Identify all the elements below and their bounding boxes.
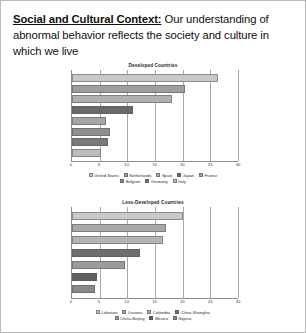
legend-label: Lituania — [128, 310, 142, 315]
chart-title: Less-Developed Countries — [68, 200, 238, 205]
bar-mexico — [72, 273, 97, 281]
headline-lead: Social and Cultural Context: — [13, 13, 161, 25]
bar-germany — [72, 138, 108, 146]
bar-nigeria — [72, 285, 95, 293]
legend-item: China-Shanghai — [175, 310, 210, 315]
axis-tick-label: 10 — [124, 162, 129, 167]
legend-swatch-icon — [115, 316, 119, 320]
legend-label: China-Beijing — [120, 316, 144, 321]
bar-row — [72, 285, 238, 293]
legend-item: Lebanon — [96, 310, 117, 315]
legend-label: Lebanon — [102, 310, 118, 315]
legend-swatch-icon — [145, 179, 149, 183]
bar-row — [72, 95, 238, 103]
gridline — [238, 207, 239, 298]
bar-united-states — [72, 74, 218, 82]
legend-label: Mexico — [155, 316, 168, 321]
x-axis-tick-labels: 051015202530 — [71, 299, 238, 308]
legend-item: Mexico — [149, 316, 167, 321]
bar-lebanon — [72, 212, 183, 220]
chart-less-developed-countries: Less-Developed Countries 051015202530 Le… — [68, 200, 238, 321]
bar-lituania — [72, 224, 166, 232]
axis-tick-label: 20 — [180, 299, 185, 304]
legend-item: United States — [89, 173, 119, 178]
x-axis-tick-labels: 051015202530 — [71, 162, 238, 171]
chart-developed-countries: Developed Countries 051015202530 United … — [68, 63, 238, 184]
axis-tick-label: 0 — [70, 299, 72, 304]
legend-item: Netherlands — [124, 173, 152, 178]
bar-china-beijing — [72, 261, 125, 269]
bar-china-shanghai — [72, 249, 140, 257]
bar-netherlands — [72, 85, 185, 93]
legend-label: France — [205, 173, 218, 178]
bar-row — [72, 249, 238, 257]
legend-item: Italy — [173, 179, 186, 184]
axis-tick-label: 15 — [152, 299, 157, 304]
axis-tick-label: 5 — [98, 299, 100, 304]
legend-label: Germany — [151, 179, 168, 184]
legend-swatch-icon — [124, 173, 128, 177]
legend-label: China-Shanghai — [181, 310, 210, 315]
legend-swatch-icon — [175, 310, 179, 314]
page-title: Social and Cultural Context: Our underst… — [1, 1, 305, 59]
bar-row — [72, 273, 238, 281]
legend-label: United States — [94, 173, 119, 178]
legend-label: Nigeria — [178, 316, 191, 321]
bar-row — [72, 74, 238, 82]
legend-swatch-icon — [120, 179, 124, 183]
chart-legend: LebanonLituaniaColombiaChina-ShanghaiChi… — [77, 309, 229, 321]
legend-item: Lituania — [122, 310, 142, 315]
legend-label: Japan — [183, 173, 194, 178]
legend-label: Colombia — [153, 310, 170, 315]
legend-swatch-icon — [177, 173, 181, 177]
legend-item: China-Beijing — [115, 316, 145, 321]
plot-area — [71, 70, 238, 162]
axis-tick-label: 20 — [180, 162, 185, 167]
bar-france — [72, 117, 106, 125]
axis-tick-label: 15 — [152, 162, 157, 167]
axis-tick-label: 30 — [236, 162, 241, 167]
plot-frame — [71, 207, 238, 299]
bar-series — [72, 207, 238, 298]
legend-label: Belgium — [126, 179, 141, 184]
bar-row — [72, 138, 238, 146]
plot-frame — [71, 70, 238, 162]
legend-swatch-icon — [96, 310, 100, 314]
legend-item: Spain — [156, 173, 172, 178]
bar-series — [72, 70, 238, 161]
legend-item: Germany — [145, 179, 167, 184]
bar-spain — [72, 95, 172, 103]
axis-tick-label: 25 — [208, 299, 213, 304]
bar-row — [72, 128, 238, 136]
legend-item: Colombia — [147, 310, 170, 315]
axis-tick-label: 30 — [236, 299, 241, 304]
chart-title: Developed Countries — [68, 63, 238, 68]
gridline — [238, 70, 239, 161]
bar-row — [72, 149, 238, 157]
slide-canvas: Social and Cultural Context: Our underst… — [0, 0, 306, 333]
bar-row — [72, 85, 238, 93]
legend-swatch-icon — [149, 316, 153, 320]
axis-tick-label: 5 — [98, 162, 100, 167]
legend-swatch-icon — [122, 310, 126, 314]
legend-swatch-icon — [199, 173, 203, 177]
legend-item: Nigeria — [173, 316, 191, 321]
legend-swatch-icon — [173, 316, 177, 320]
plot-area — [71, 207, 238, 299]
legend-swatch-icon — [89, 173, 93, 177]
legend-label: Spain — [162, 173, 172, 178]
bar-belgium — [72, 128, 110, 136]
legend-item: France — [199, 173, 217, 178]
bar-row — [72, 236, 238, 244]
chart-legend: United StatesNetherlandsSpainJapanFrance… — [77, 172, 229, 184]
legend-swatch-icon — [147, 310, 151, 314]
bar-italy — [72, 149, 101, 157]
bar-row — [72, 212, 238, 220]
legend-swatch-icon — [173, 179, 177, 183]
axis-tick-label: 25 — [208, 162, 213, 167]
bar-row — [72, 117, 238, 125]
bar-japan — [72, 106, 133, 114]
bar-colombia — [72, 236, 163, 244]
legend-item: Belgium — [120, 179, 140, 184]
legend-item: Japan — [177, 173, 194, 178]
